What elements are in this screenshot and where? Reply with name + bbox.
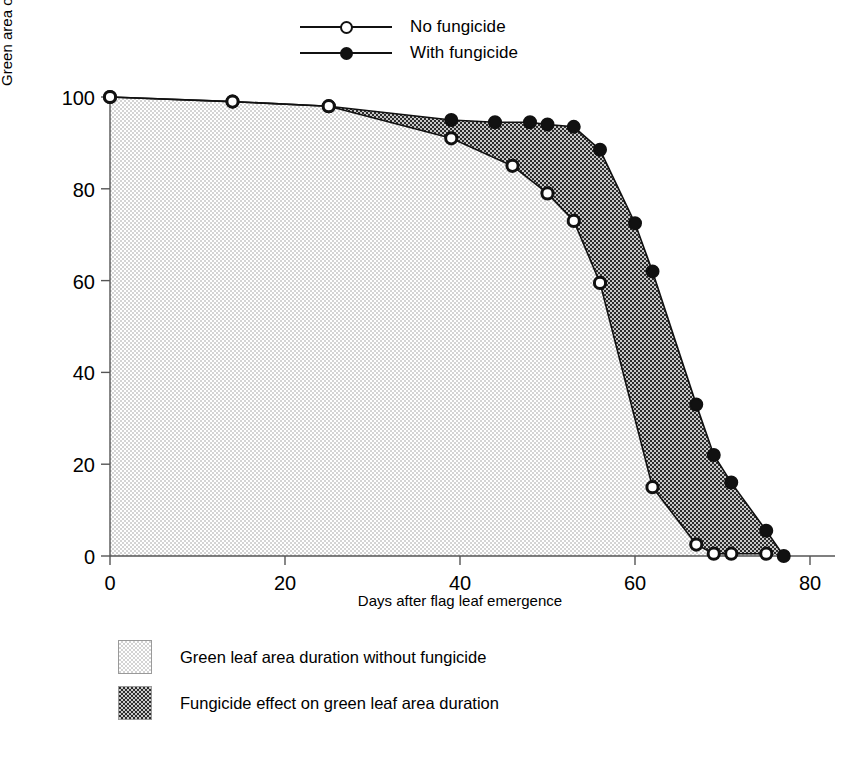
- plot-svg: 020406080100020406080: [0, 0, 861, 620]
- data-point-no-fungicide: [323, 101, 334, 112]
- x-axis-title: Days after flag leaf emergence: [110, 592, 810, 609]
- fill-legend: Green leaf area duration without fungici…: [118, 634, 499, 726]
- fill-legend-item-light: Green leaf area duration without fungici…: [118, 634, 499, 680]
- data-point-no-fungicide: [568, 215, 579, 226]
- dark-dither-swatch-icon: [118, 686, 152, 720]
- plot-area: 020406080100020406080 Green area of the …: [0, 0, 861, 620]
- data-point-with-fungicide: [725, 476, 737, 488]
- data-point-no-fungicide: [726, 548, 737, 559]
- data-point-with-fungicide: [524, 116, 536, 128]
- data-point-with-fungicide: [541, 118, 553, 130]
- data-point-no-fungicide: [104, 91, 115, 102]
- data-point-with-fungicide: [629, 217, 641, 229]
- data-point-with-fungicide: [708, 449, 720, 461]
- data-point-no-fungicide: [594, 277, 605, 288]
- y-tick-label-100: 100: [62, 87, 95, 109]
- light-dither-swatch-icon: [118, 640, 152, 674]
- fill-legend-label-dark: Fungicide effect on green leaf area dura…: [180, 694, 499, 713]
- data-point-with-fungicide: [594, 144, 606, 156]
- x-tick-label-80: 80: [799, 572, 821, 594]
- data-point-with-fungicide: [489, 116, 501, 128]
- data-point-no-fungicide: [691, 539, 702, 550]
- fill-legend-item-dark: Fungicide effect on green leaf area dura…: [118, 680, 499, 726]
- data-point-with-fungicide: [646, 265, 658, 277]
- data-point-with-fungicide: [445, 114, 457, 126]
- data-point-no-fungicide: [708, 548, 719, 559]
- data-point-no-fungicide: [542, 188, 553, 199]
- x-tick-label-60: 60: [624, 572, 646, 594]
- y-tick-label-20: 20: [73, 454, 95, 476]
- data-point-with-fungicide: [778, 550, 790, 562]
- data-point-no-fungicide: [761, 548, 772, 559]
- data-point-no-fungicide: [446, 133, 457, 144]
- data-point-with-fungicide: [568, 121, 580, 133]
- y-tick-label-0: 0: [84, 546, 95, 568]
- x-tick-label-40: 40: [449, 572, 471, 594]
- y-axis-title: Green area of the flag leaf (%): [0, 0, 15, 150]
- data-point-no-fungicide: [227, 96, 238, 107]
- data-point-no-fungicide: [647, 482, 658, 493]
- data-point-with-fungicide: [760, 525, 772, 537]
- area-fills: [110, 97, 784, 556]
- y-tick-label-40: 40: [73, 362, 95, 384]
- y-tick-label-60: 60: [73, 271, 95, 293]
- chart-figure: No fungicide With fungicide: [0, 0, 861, 765]
- data-point-with-fungicide: [690, 398, 702, 410]
- y-tick-label-80: 80: [73, 179, 95, 201]
- x-tick-label-20: 20: [274, 572, 296, 594]
- data-point-no-fungicide: [507, 160, 518, 171]
- fill-legend-label-light: Green leaf area duration without fungici…: [180, 648, 486, 667]
- x-tick-label-0: 0: [104, 572, 115, 594]
